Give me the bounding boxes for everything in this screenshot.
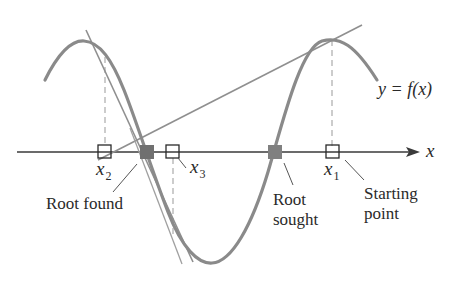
x3-label-name: x xyxy=(190,156,198,177)
root-found-marker xyxy=(140,145,154,159)
root-sought-label-line1: Root xyxy=(273,191,306,209)
x2-label-subscript: 2 xyxy=(105,169,111,183)
root-sought-label-line2: sought xyxy=(273,211,318,229)
leader-root-found xyxy=(113,164,137,192)
leader-starting-point xyxy=(345,160,364,180)
tangent-at-x2 xyxy=(86,30,193,262)
x2-label: x2 xyxy=(96,160,111,180)
x2-label-name: x xyxy=(96,158,104,179)
leader-root-sought xyxy=(284,163,293,185)
starting-point-label-line1: Starting xyxy=(364,185,418,203)
x1-label-name: x xyxy=(324,158,332,179)
x1-label: x1 xyxy=(324,160,339,180)
root-sought-marker xyxy=(268,145,282,159)
x3-label-subscript: 3 xyxy=(199,167,205,181)
tangent-at-x3 xyxy=(130,128,182,264)
x3-label: x3 xyxy=(190,158,205,178)
starting-point-label-line2: point xyxy=(364,205,399,223)
x-axis-label: x xyxy=(426,142,434,160)
leader-x3 xyxy=(178,158,186,168)
newton-method-diagram xyxy=(0,0,452,283)
root-found-label: Root found xyxy=(46,195,123,213)
x1-label-subscript: 1 xyxy=(333,169,339,183)
function-label: y = f(x) xyxy=(378,80,432,98)
tangent-at-x1 xyxy=(98,25,362,160)
